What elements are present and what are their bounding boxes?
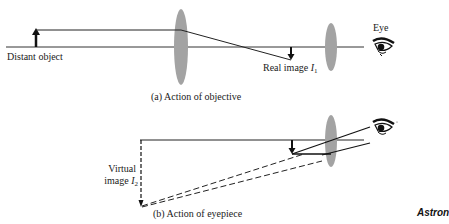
virtual-image-text: image — [104, 175, 128, 186]
panel-a — [6, 9, 394, 85]
cutoff-title: Astron — [417, 207, 449, 218]
caption-a: (a) Action of objective — [151, 91, 241, 102]
virtual-image-label-line1: Virtual — [106, 163, 136, 174]
dashed-ray-2 — [142, 161, 322, 207]
arrow-head-up-icon — [32, 28, 40, 35]
panel-b — [139, 115, 398, 207]
ray-a — [36, 30, 291, 60]
real-image-text: Real image — [263, 62, 308, 73]
real-image-subscript: 1 — [314, 67, 318, 75]
eye-label: Eye — [373, 22, 389, 33]
eyepiece-lens-a — [325, 23, 337, 71]
distant-object-label: Distant object — [7, 51, 63, 62]
virtual-image-label-line2: image I2 — [100, 175, 138, 190]
real-image-label: Real image I1 — [263, 62, 318, 77]
caption-b: (b) Action of eyepiece — [153, 208, 242, 219]
eye-icon — [373, 119, 398, 134]
virtual-image-subscript: 2 — [135, 180, 139, 188]
objective-lens — [174, 9, 188, 85]
dashed-ray-1 — [142, 154, 304, 206]
eye-icon — [373, 38, 394, 56]
